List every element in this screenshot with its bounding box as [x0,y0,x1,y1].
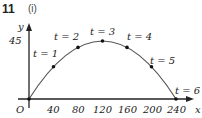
x-axis-label: x [195,104,201,115]
point-t6 [174,97,178,101]
point-label-t3: t = 3 [90,26,115,37]
point-label-t6: t = 6 [175,85,201,96]
y-max-label: 45 [8,35,22,46]
point-t1 [52,65,56,69]
trajectory-chart: y 45 x O 40 80 120 160 200 240 t = 1 t =… [0,0,202,118]
x-tick-160: 160 [118,104,138,115]
x-tick-40: 40 [46,104,60,115]
x-axis-arrow-icon [186,96,194,102]
point-t2 [76,46,80,50]
x-tick-80: 80 [72,104,85,115]
y-axis-label: y [17,21,24,32]
point-label-t4: t = 4 [127,31,152,42]
point-t4 [125,46,129,50]
x-tick-240: 240 [166,104,187,115]
point-label-t5: t = 5 [150,55,175,66]
point-t3 [101,39,105,43]
point-origin [27,97,31,101]
y-axis-arrow-icon [26,23,32,31]
x-tick-200: 200 [142,104,163,115]
x-tick-120: 120 [93,104,113,115]
point-label-t1: t = 1 [33,48,58,59]
point-label-t2: t = 2 [54,31,79,42]
origin-label: O [16,104,24,115]
